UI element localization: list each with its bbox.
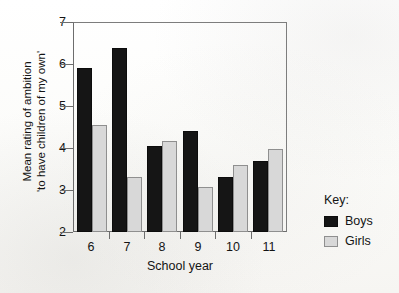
- legend-entry-boys: Boys: [324, 214, 373, 228]
- x-tick-label-10: 10: [218, 240, 248, 254]
- bar-group-9: [183, 22, 213, 232]
- legend-entry-girls: Girls: [324, 234, 373, 248]
- x-tick-label-6: 6: [76, 240, 106, 254]
- bar-boys-11: [253, 161, 268, 232]
- bar-girls-11: [268, 149, 283, 232]
- bars-area: [74, 22, 286, 232]
- x-tick-mark: [251, 232, 252, 239]
- x-tick-label-9: 9: [183, 240, 213, 254]
- bar-girls-7: [127, 177, 142, 232]
- bar-girls-6: [92, 125, 107, 232]
- y-tick-mark: [60, 232, 73, 233]
- bar-boys-10: [218, 177, 233, 232]
- bar-group-11: [253, 22, 283, 232]
- x-tick-label-8: 8: [147, 240, 177, 254]
- bar-group-7: [112, 22, 142, 232]
- x-axis-title: School year: [73, 259, 287, 273]
- y-axis-title: Mean rating of ambition 'to have childre…: [21, 22, 48, 222]
- bar-boys-7: [112, 48, 127, 232]
- bar-group-10: [218, 22, 248, 232]
- legend-swatch-girls: [324, 236, 338, 247]
- legend: Key: Boys Girls: [324, 193, 373, 254]
- bar-boys-8: [147, 146, 162, 232]
- y-tick-mark: [60, 22, 73, 23]
- bar-boys-6: [77, 68, 92, 232]
- x-tick-mark: [144, 232, 145, 239]
- x-tick-label-7: 7: [112, 240, 142, 254]
- legend-label-girls: Girls: [345, 234, 371, 248]
- x-tick-mark: [109, 232, 110, 239]
- chart-page: 7 6 5 4 3 2: [0, 0, 399, 293]
- x-tick-label-11: 11: [254, 240, 284, 254]
- y-axis-title-line2: 'to have children of my own': [34, 22, 48, 222]
- bar-girls-9: [198, 187, 213, 232]
- bar-group-8: [147, 22, 177, 232]
- x-tick-mark: [215, 232, 216, 239]
- y-tick-mark: [60, 148, 73, 149]
- bar-group-6: [77, 22, 107, 232]
- y-axis-title-line1: Mean rating of ambition: [21, 61, 33, 181]
- legend-title: Key:: [324, 193, 373, 207]
- legend-label-boys: Boys: [345, 214, 373, 228]
- bar-girls-10: [233, 165, 248, 232]
- y-tick-mark: [60, 106, 73, 107]
- y-tick-mark: [60, 190, 73, 191]
- legend-swatch-boys: [324, 216, 338, 227]
- x-tick-mark: [180, 232, 181, 239]
- y-tick-mark: [60, 64, 73, 65]
- bar-girls-8: [162, 141, 177, 232]
- bar-boys-9: [183, 131, 198, 232]
